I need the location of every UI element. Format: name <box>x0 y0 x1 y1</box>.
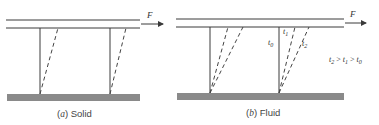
deformed-dashed-line-t2 <box>279 27 309 93</box>
force-label: F <box>146 10 153 20</box>
fixed-ground-plate <box>7 94 140 101</box>
caption-solid: (a) Solid <box>57 108 92 119</box>
deformed-dashed-line <box>40 28 58 94</box>
deformed-dashed-line <box>110 28 126 94</box>
force-label: F <box>349 9 356 19</box>
deformed-dashed-line-t2 <box>210 27 243 93</box>
shear-deformation-diagram: F (a) Solid F t0 t1 t2 t2>t1>t0 (b) Flui… <box>0 0 379 125</box>
deformed-dashed-line-t1 <box>210 27 228 93</box>
panel-solid: F (a) Solid <box>6 10 163 119</box>
caption-fluid: (b) Fluid <box>246 107 280 118</box>
time-label-t1: t1 <box>283 27 288 37</box>
time-ordering-relation: t2>t1>t0 <box>329 55 362 65</box>
time-label-t2: t2 <box>302 39 307 49</box>
panel-fluid: F t0 t1 t2 t2>t1>t0 (b) Fluid <box>176 9 366 118</box>
fixed-ground-plate <box>177 93 344 100</box>
time-label-t0: t0 <box>268 38 273 48</box>
